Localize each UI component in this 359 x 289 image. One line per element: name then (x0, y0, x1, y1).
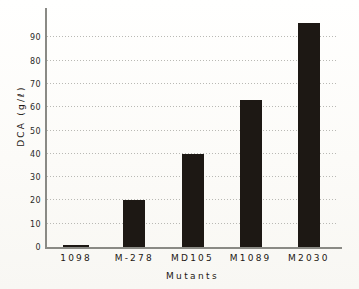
bar (63, 245, 89, 247)
gridline (47, 130, 338, 131)
y-axis-tick-label: 70 (30, 79, 41, 88)
bar (240, 100, 262, 247)
x-axis-tick-label: 1098 (60, 253, 92, 263)
y-axis-tick-label: 90 (30, 33, 41, 42)
x-axis-line (45, 247, 342, 249)
plot-inner (47, 14, 338, 247)
bar (123, 200, 145, 247)
y-axis-tick-label: 0 (36, 243, 42, 252)
y-axis-tick-label: 40 (30, 149, 41, 158)
y-axis-tick-label: 50 (30, 126, 41, 135)
x-axis-tick-label: M1089 (230, 253, 272, 263)
y-axis-title-label: DCA (g/ℓ) (16, 85, 26, 147)
y-axis-tick-label: 10 (30, 219, 41, 228)
x-axis-title: Mutants (47, 271, 338, 281)
y-axis-tick-label: 60 (30, 103, 41, 112)
x-axis-tick-label: M-278 (115, 253, 154, 263)
gridline (47, 60, 338, 61)
plot-area: 0102030405060708090 1098M-278MD105M1089M… (47, 14, 338, 247)
x-axis-tick-label: MD105 (171, 253, 214, 263)
bar (298, 23, 320, 247)
gridline (47, 83, 338, 84)
chart-figure: DCA (g/ℓ) 0102030405060708090 1098M-278M… (0, 0, 359, 289)
x-axis-tick-label: M2030 (288, 253, 330, 263)
y-axis-tick-label: 30 (30, 173, 41, 182)
bar (182, 154, 204, 247)
y-axis-tick-label: 80 (30, 56, 41, 65)
gridline (47, 36, 338, 37)
gridline (47, 106, 338, 107)
y-axis-tick-label: 20 (30, 196, 41, 205)
